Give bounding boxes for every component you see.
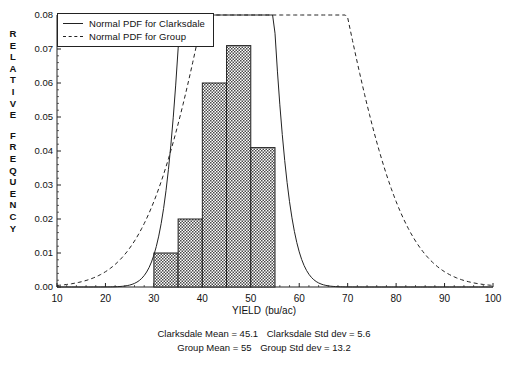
legend-item-clarksdale: Normal PDF for Clarksdale xyxy=(63,17,205,30)
chart-footer-stats: Clarksdale Mean = 45.1 Clarksdale Std de… xyxy=(0,327,528,355)
legend-label-clarksdale: Normal PDF for Clarksdale xyxy=(89,18,205,29)
legend-item-group: Normal PDF for Group xyxy=(63,30,205,43)
clarksdale-mean-stat: Clarksdale Mean = 45.1 xyxy=(157,328,258,339)
x-axis-label-unit: (bu/ac) xyxy=(265,305,296,316)
histogram-bar xyxy=(202,83,226,287)
histogram-bar xyxy=(227,46,251,287)
x-axis-label-text: YIELD xyxy=(232,305,261,316)
legend-line-dashed-icon xyxy=(63,32,83,42)
normal-pdf-histogram-figure: RELATIVEFREQUENCY 0.000.010.020.030.040.… xyxy=(0,0,528,371)
footer-line-group: Group Mean = 55 Group Std dev = 13.2 xyxy=(0,341,528,355)
group-stddev-stat: Group Std dev = 13.2 xyxy=(260,342,351,353)
group-mean-stat: Group Mean = 55 xyxy=(177,342,251,353)
histogram-bar xyxy=(154,253,178,287)
x-axis-label: YIELD(bu/ac) xyxy=(0,305,528,316)
clarksdale-stddev-stat: Clarksdale Std dev = 5.6 xyxy=(267,328,371,339)
histogram-bar xyxy=(178,219,202,287)
footer-line-clarksdale: Clarksdale Mean = 45.1 Clarksdale Std de… xyxy=(0,327,528,341)
chart-legend: Normal PDF for Clarksdale Normal PDF for… xyxy=(57,13,214,47)
legend-label-group: Normal PDF for Group xyxy=(89,31,186,42)
histogram-bar xyxy=(251,148,275,287)
legend-line-solid-icon xyxy=(63,19,83,29)
